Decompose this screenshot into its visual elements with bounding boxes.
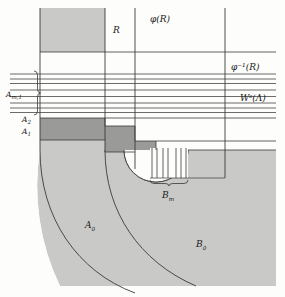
label-A-2: A2 <box>21 115 31 125</box>
diagram-svg: R φ(R) φ⁻¹(R) Wˢ(Λ) Am,1 A2 A1 A0 Bm B0 <box>0 0 285 297</box>
stair-step-2 <box>105 126 135 152</box>
label-A-m-1: Am,1 <box>5 90 22 100</box>
strips-background <box>150 148 188 178</box>
label-phi-R: φ(R) <box>150 14 171 24</box>
top-gray-strip <box>40 8 105 52</box>
stable-manifold-leaves <box>10 74 276 113</box>
label-A-1: A1 <box>21 127 31 137</box>
stair-step-1 <box>40 118 105 140</box>
right-gray-band <box>225 150 276 286</box>
brace-a-m-1 <box>34 71 41 115</box>
label-phi-inverse-R: φ⁻¹(R) <box>231 62 260 72</box>
label-Ws-Lambda: Wˢ(Λ) <box>240 93 266 103</box>
figure-canvas: R φ(R) φ⁻¹(R) Wˢ(Λ) Am,1 A2 A1 A0 Bm B0 <box>0 0 285 297</box>
label-R: R <box>112 25 120 35</box>
